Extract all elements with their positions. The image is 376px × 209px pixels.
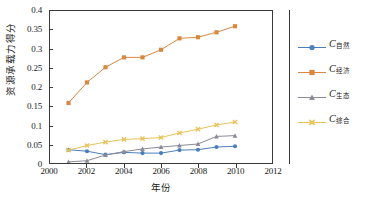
data-point	[85, 80, 89, 84]
y-tick-label: 0.1	[31, 121, 42, 131]
y-tick-mark	[49, 145, 53, 146]
legend-label: C经济	[329, 63, 350, 75]
legend-marker-square-icon	[298, 64, 326, 75]
data-point	[214, 30, 218, 34]
y-tick-mark	[49, 49, 53, 50]
legend-label: C综合	[329, 113, 350, 125]
y-axis-tick-labels: 00.050.10.150.20.250.30.350.4	[0, 10, 46, 164]
x-axis-tick-labels: 2000200220042006200820102012	[0, 166, 376, 180]
y-tick-mark	[49, 68, 53, 69]
y-tick-mark	[49, 29, 53, 30]
x-tick-mark	[236, 164, 237, 168]
plot-area	[49, 10, 273, 164]
y-tick-label: 0.15	[27, 101, 42, 111]
x-tick-mark	[198, 164, 199, 168]
legend-item-circle[interactable]: C自然	[290, 38, 376, 50]
plot-svg	[50, 11, 272, 163]
legend-item-square[interactable]: C经济	[290, 63, 376, 75]
legend-item-triangle[interactable]: C生态	[290, 88, 376, 100]
legend-label: C生态	[329, 88, 350, 100]
data-point	[177, 36, 181, 40]
series-line-square	[69, 26, 236, 103]
data-point	[66, 101, 70, 105]
y-tick-label: 0.2	[31, 82, 42, 92]
data-point	[233, 24, 237, 28]
chart-legend: C自然C经济C生态C综合	[289, 10, 376, 164]
x-tick-label: 2000	[40, 166, 57, 176]
data-point	[233, 144, 237, 148]
x-tick-mark	[124, 164, 125, 168]
legend-marker-cross-icon	[298, 114, 326, 125]
data-point	[85, 149, 89, 153]
y-tick-label: 0.35	[27, 24, 42, 34]
data-point	[103, 65, 107, 69]
legend-item-cross[interactable]: C综合	[290, 113, 376, 125]
chart-figure: 资源承载力得分 00.050.10.150.20.250.30.350.4 20…	[0, 0, 376, 209]
series-line-cross	[69, 122, 236, 150]
data-point	[159, 48, 163, 52]
data-point	[196, 148, 200, 152]
data-point	[177, 148, 181, 152]
y-tick-label: 0.3	[31, 44, 42, 54]
data-point	[140, 151, 144, 155]
x-tick-label: 2012	[264, 166, 281, 176]
data-point	[140, 55, 144, 59]
x-tick-mark	[161, 164, 162, 168]
data-point	[66, 159, 71, 163]
x-axis-title: 年份	[49, 180, 273, 194]
legend-marker-circle-icon	[298, 39, 326, 50]
data-point	[122, 55, 126, 59]
data-point	[214, 145, 218, 149]
y-tick-mark	[49, 126, 53, 127]
y-tick-label: 0.4	[31, 5, 42, 15]
legend-marker-triangle-icon	[298, 89, 326, 100]
series-line-triangle	[69, 136, 236, 162]
data-point	[159, 151, 163, 155]
x-tick-mark	[86, 164, 87, 168]
legend-label: C自然	[329, 38, 350, 50]
y-tick-label: 0.25	[27, 63, 42, 73]
data-point	[196, 35, 200, 39]
y-tick-label: 0.05	[27, 140, 42, 150]
y-tick-mark	[49, 106, 53, 107]
y-tick-mark	[49, 87, 53, 88]
